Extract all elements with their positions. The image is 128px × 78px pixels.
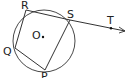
point-t-dot <box>110 27 112 29</box>
label-t: T <box>106 14 114 27</box>
label-o: O <box>32 29 41 42</box>
center-o-dot <box>42 36 44 38</box>
line-st-extension <box>70 20 125 31</box>
quadrilateral-pqrs <box>15 10 70 70</box>
label-s: S <box>67 8 74 21</box>
label-q: Q <box>3 45 12 58</box>
geometry-diagram: R S P Q T O <box>0 0 128 78</box>
label-p: P <box>41 70 48 78</box>
label-r: R <box>21 0 29 12</box>
